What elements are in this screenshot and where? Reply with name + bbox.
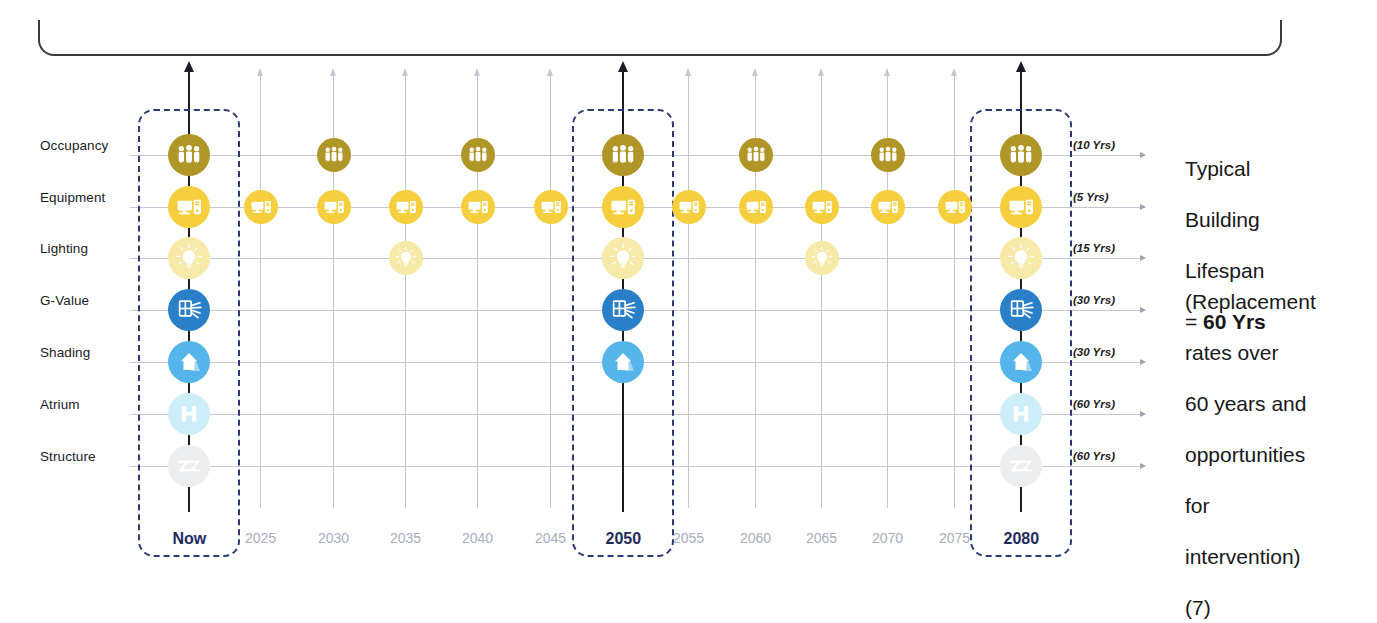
year-caption-2075[interactable]: 2075 [939, 530, 970, 546]
marker-equipment-2070[interactable] [871, 190, 905, 224]
marker-lighting-2050[interactable] [602, 237, 644, 279]
marker-gvalue-now[interactable] [168, 289, 210, 331]
row-interval-atrium: (60 Yrs) [1073, 398, 1115, 410]
equipment-computer-icon [606, 190, 640, 224]
marker-equipment-2075[interactable] [938, 190, 972, 224]
lighting-bulb-icon [392, 244, 420, 272]
g-value-window-icon [172, 293, 206, 327]
marker-occupancy-2050[interactable] [602, 134, 644, 176]
marker-occupancy-2040[interactable] [461, 138, 495, 172]
year-caption-2070[interactable]: 2070 [872, 530, 903, 546]
marker-gvalue-2050[interactable] [602, 289, 644, 331]
row-arrowhead-occupancy [1140, 152, 1146, 158]
marker-gvalue-2080[interactable] [1000, 289, 1042, 331]
marker-equipment-2025[interactable] [244, 190, 278, 224]
marker-equipment-2060[interactable] [739, 190, 773, 224]
top-bracket [38, 20, 1282, 56]
row-label-atrium: Atrium [0, 397, 122, 412]
marker-lighting-2035[interactable] [389, 241, 423, 275]
marker-shading-2050[interactable] [602, 341, 644, 383]
marker-shading-2080[interactable] [1000, 341, 1042, 383]
marker-atrium-2080[interactable] [1000, 393, 1042, 435]
equipment-computer-icon [392, 193, 420, 221]
equipment-computer-icon [874, 193, 902, 221]
row-label-gvalue: G-Value [0, 293, 122, 308]
occupancy-people-icon [742, 141, 770, 169]
row-label-structure: Structure [0, 449, 122, 464]
marker-lighting-2080[interactable] [1000, 237, 1042, 279]
marker-equipment-2040[interactable] [461, 190, 495, 224]
highlight-box-2080[interactable] [970, 109, 1072, 557]
row-arrowhead-lighting [1140, 255, 1146, 261]
highlight-box-2050[interactable] [572, 109, 674, 557]
row-label-shading: Shading [0, 345, 122, 360]
marker-occupancy-2060[interactable] [739, 138, 773, 172]
year-axis-arrowhead-2065 [818, 68, 824, 76]
year-caption-2060[interactable]: 2060 [740, 530, 771, 546]
equipment-computer-icon [941, 193, 969, 221]
marker-occupancy-2070[interactable] [871, 138, 905, 172]
shading-house-icon [606, 345, 640, 379]
year-caption-2080[interactable]: 2080 [1004, 530, 1040, 548]
row-arrowhead-equipment [1140, 204, 1146, 210]
row-arrowhead-shading [1140, 359, 1146, 365]
year-axis-arrowhead-2025 [257, 68, 263, 76]
year-caption-2035[interactable]: 2035 [390, 530, 421, 546]
lifespan-line-1: Typical [1185, 156, 1266, 182]
marker-occupancy-2030[interactable] [317, 138, 351, 172]
marker-occupancy-2080[interactable] [1000, 134, 1042, 176]
year-caption-2040[interactable]: 2040 [462, 530, 493, 546]
marker-structure-now[interactable] [168, 445, 210, 487]
year-axis-2055 [688, 76, 689, 508]
structure-icon [172, 449, 206, 483]
lighting-bulb-icon [808, 244, 836, 272]
year-axis-arrowhead-2060 [752, 68, 758, 76]
marker-equipment-2065[interactable] [805, 190, 839, 224]
equipment-computer-icon [742, 193, 770, 221]
row-interval-lighting: (15 Yrs) [1073, 242, 1115, 254]
occupancy-people-icon [172, 138, 206, 172]
marker-occupancy-now[interactable] [168, 134, 210, 176]
marker-equipment-2035[interactable] [389, 190, 423, 224]
marker-structure-2080[interactable] [1000, 445, 1042, 487]
year-caption-2045[interactable]: 2045 [535, 530, 566, 546]
year-caption-2055[interactable]: 2055 [673, 530, 704, 546]
year-caption-2065[interactable]: 2065 [806, 530, 837, 546]
shading-house-icon [172, 345, 206, 379]
row-label-lighting: Lighting [0, 241, 122, 256]
marker-lighting-now[interactable] [168, 237, 210, 279]
row-label-occupancy: Occupancy [0, 138, 122, 153]
occupancy-people-icon [320, 141, 348, 169]
year-caption-2050[interactable]: 2050 [606, 530, 642, 548]
year-caption-2030[interactable]: 2030 [318, 530, 349, 546]
marker-equipment-2045[interactable] [534, 190, 568, 224]
row-arrowhead-atrium [1140, 411, 1146, 417]
highlight-box-now[interactable] [138, 109, 240, 557]
marker-equipment-now[interactable] [168, 186, 210, 228]
year-axis-arrowhead-2055 [685, 68, 691, 76]
year-axis-arrowhead-now [184, 61, 194, 72]
equipment-computer-icon [172, 190, 206, 224]
marker-equipment-2030[interactable] [317, 190, 351, 224]
year-axis-arrowhead-2040 [474, 68, 480, 76]
row-interval-occupancy: (10 Yrs) [1073, 139, 1115, 151]
equipment-computer-icon [320, 193, 348, 221]
note-line-5: for [1185, 493, 1316, 519]
occupancy-people-icon [464, 141, 492, 169]
structure-icon [1004, 449, 1038, 483]
marker-lighting-2065[interactable] [805, 241, 839, 275]
year-caption-now[interactable]: Now [172, 530, 206, 548]
marker-shading-now[interactable] [168, 341, 210, 383]
equipment-computer-icon [1004, 190, 1038, 224]
g-value-window-icon [606, 293, 640, 327]
marker-atrium-now[interactable] [168, 393, 210, 435]
marker-equipment-2080[interactable] [1000, 186, 1042, 228]
shading-house-icon [1004, 345, 1038, 379]
atrium-icon [172, 397, 206, 431]
lighting-bulb-icon [606, 241, 640, 275]
year-axis-2035 [405, 76, 406, 508]
year-caption-2025[interactable]: 2025 [245, 530, 276, 546]
marker-equipment-2055[interactable] [672, 190, 706, 224]
marker-equipment-2050[interactable] [602, 186, 644, 228]
